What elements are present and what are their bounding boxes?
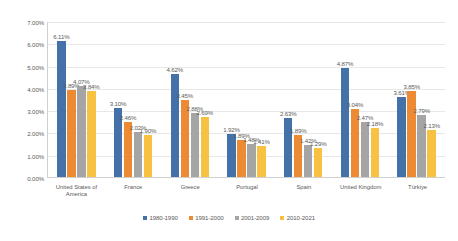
legend-item[interactable]: 2010-2021: [280, 214, 315, 221]
x-axis-category-label: United States of America: [48, 180, 105, 206]
legend-item[interactable]: 1980-1990: [143, 214, 178, 221]
bar[interactable]: [397, 97, 406, 177]
legend-label: 2010-2021: [287, 214, 315, 221]
legend-swatch-icon: [189, 216, 193, 220]
bar-wrapper: 3.84%: [87, 22, 96, 177]
x-axis-category-label: Portugal: [219, 180, 276, 206]
bar[interactable]: [371, 128, 380, 177]
bar[interactable]: [361, 122, 370, 177]
bar[interactable]: [314, 148, 323, 177]
bar[interactable]: [341, 68, 350, 177]
bar-wrapper: 4.87%: [341, 22, 350, 177]
bar-wrapper: 4.07%: [77, 22, 86, 177]
x-axis-category-label: United Kingdom: [332, 180, 389, 206]
legend-label: 2001-2009: [241, 214, 269, 221]
bar-group: 6.11%3.89%4.07%3.84%: [48, 22, 105, 177]
bar-wrapper: 3.61%: [397, 22, 406, 177]
bar-wrapper: 6.11%: [57, 22, 66, 177]
plot-area: 6.11%3.89%4.07%3.84%3.10%2.46%2.02%1.90%…: [47, 22, 445, 178]
bar-wrapper: 1.41%: [257, 22, 266, 177]
legend-label: 1980-1990: [150, 214, 178, 221]
bar-group: 4.62%3.45%2.88%2.69%: [161, 22, 218, 177]
bar-value-label: 1.90%: [140, 127, 157, 134]
bar[interactable]: [257, 146, 266, 177]
bar[interactable]: [77, 86, 86, 177]
bar-wrapper: 2.88%: [191, 22, 200, 177]
bar-wrapper: 3.45%: [181, 22, 190, 177]
bar-wrapper: 3.89%: [67, 22, 76, 177]
bar-wrapper: 1.48%: [247, 22, 256, 177]
bar-wrapper: 2.47%: [361, 22, 370, 177]
x-axis-category-label: Greece: [162, 180, 219, 206]
bar-value-label: 2.18%: [367, 120, 384, 127]
bar[interactable]: [191, 113, 200, 177]
legend-item[interactable]: 1991-2000: [189, 214, 224, 221]
bar-value-label: 2.69%: [197, 109, 214, 116]
y-axis-tick-label: 6.00%: [27, 41, 44, 48]
y-axis-tick-label: 2.00%: [27, 130, 44, 137]
bar[interactable]: [304, 145, 313, 177]
bar-wrapper: 1.92%: [227, 22, 236, 177]
bar[interactable]: [407, 91, 416, 177]
bar-wrapper: 2.69%: [201, 22, 210, 177]
bar-wrapper: 3.85%: [407, 22, 416, 177]
chart-legend: 1980-19901991-20002001-20092010-2021: [0, 214, 458, 221]
bar-value-label: 2.13%: [423, 122, 440, 129]
x-axis-line: [47, 177, 445, 178]
bar-groups: 6.11%3.89%4.07%3.84%3.10%2.46%2.02%1.90%…: [48, 22, 445, 177]
y-axis: 7.00%6.00%5.00%4.00%3.00%2.00%1.00%0.00%: [0, 22, 44, 178]
bar[interactable]: [427, 130, 436, 177]
bar[interactable]: [227, 134, 236, 177]
bar[interactable]: [201, 117, 210, 177]
y-axis-tick-label: 0.00%: [27, 175, 44, 182]
bar[interactable]: [134, 132, 143, 177]
bar-wrapper: 2.18%: [371, 22, 380, 177]
bar-wrapper: 3.04%: [351, 22, 360, 177]
bar[interactable]: [67, 90, 76, 177]
legend-swatch-icon: [280, 216, 284, 220]
x-axis-categories: United States of AmericaFranceGreecePort…: [48, 180, 446, 206]
bar-wrapper: 2.02%: [134, 22, 143, 177]
bar-group: 3.10%2.46%2.02%1.90%: [105, 22, 162, 177]
bar[interactable]: [171, 74, 180, 177]
y-axis-tick-label: 1.00%: [27, 152, 44, 159]
bar[interactable]: [87, 91, 96, 177]
bar-group: 1.92%1.89%1.48%1.41%: [218, 22, 275, 177]
bar-wrapper: 1.90%: [144, 22, 153, 177]
legend-swatch-icon: [235, 216, 239, 220]
y-axis-tick-label: 4.00%: [27, 85, 44, 92]
bar-wrapper: 3.10%: [114, 22, 123, 177]
bar[interactable]: [247, 144, 256, 177]
bar-value-label: 1.41%: [253, 138, 270, 145]
x-axis-category-label: France: [105, 180, 162, 206]
bar[interactable]: [57, 41, 66, 177]
bar-wrapper: 4.62%: [171, 22, 180, 177]
bar-wrapper: 1.42%: [304, 22, 313, 177]
y-axis-tick-label: 3.00%: [27, 108, 44, 115]
legend-label: 1991-2000: [195, 214, 223, 221]
x-axis-category-label: Türkiye: [389, 180, 446, 206]
bar-group: 2.63%1.89%1.42%1.29%: [275, 22, 332, 177]
bar-group: 4.87%3.04%2.47%2.18%: [332, 22, 389, 177]
bar-wrapper: 2.46%: [124, 22, 133, 177]
bar-wrapper: 1.89%: [237, 22, 246, 177]
bar-wrapper: 1.29%: [314, 22, 323, 177]
legend-swatch-icon: [143, 216, 147, 220]
bar-value-label: 1.29%: [310, 140, 327, 147]
bar-value-label: 3.84%: [83, 83, 100, 90]
bar-wrapper: 2.63%: [284, 22, 293, 177]
bar-group: 3.61%3.85%2.79%2.13%: [388, 22, 445, 177]
bar-chart: 7.00%6.00%5.00%4.00%3.00%2.00%1.00%0.00%…: [0, 0, 458, 241]
bar-wrapper: 1.89%: [294, 22, 303, 177]
legend-item[interactable]: 2001-2009: [235, 214, 270, 221]
bar-wrapper: 2.79%: [417, 22, 426, 177]
bar-wrapper: 2.13%: [427, 22, 436, 177]
y-axis-tick-label: 5.00%: [27, 63, 44, 70]
x-axis-category-label: Spain: [275, 180, 332, 206]
bar[interactable]: [144, 135, 153, 177]
bar[interactable]: [237, 140, 246, 177]
y-axis-tick-label: 7.00%: [27, 19, 44, 26]
